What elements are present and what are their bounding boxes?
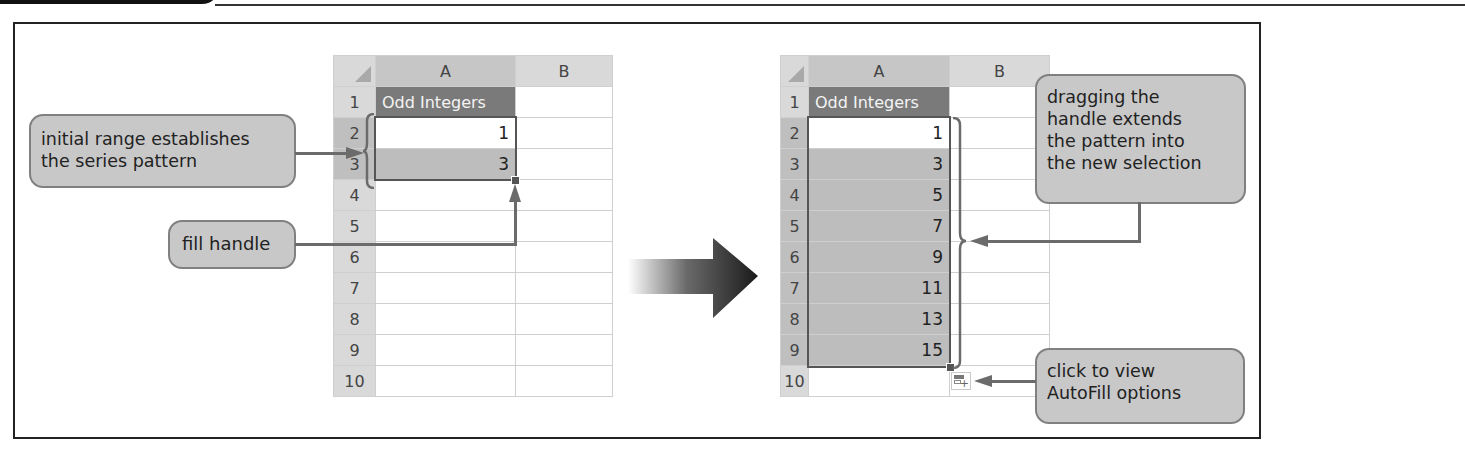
arrow-up-icon [509, 184, 521, 202]
row-header-6[interactable]: 6 [334, 242, 376, 273]
arrow-left-icon [970, 235, 988, 247]
section-header-tab [0, 0, 220, 4]
cell-b8[interactable] [516, 304, 613, 335]
connector-autofill [988, 380, 1036, 383]
callout-dragging-line1: dragging the [1047, 86, 1234, 108]
cell-a3[interactable]: 3 [809, 149, 950, 180]
callout-initial-range: initial range establishes the series pat… [29, 114, 296, 188]
cell-a2[interactable]: 1 [376, 118, 516, 149]
cell-a9[interactable]: 15 [809, 335, 950, 366]
transition-arrow-icon [628, 238, 758, 318]
connector-dragging-h [985, 240, 1141, 243]
cell-a7[interactable]: 11 [809, 273, 950, 304]
cell-b4[interactable] [516, 180, 613, 211]
cell-a1[interactable]: Odd Integers [809, 87, 950, 118]
row-header-9[interactable]: 9 [334, 335, 376, 366]
arrow-right-icon [346, 147, 364, 159]
callout-dragging-line2: handle extends [1047, 108, 1234, 130]
callout-dragging: dragging the handle extends the pattern … [1035, 74, 1246, 204]
right-range-brace-icon [952, 117, 968, 369]
row-header-1[interactable]: 1 [781, 87, 809, 118]
column-header-b[interactable]: B [516, 56, 613, 87]
cell-b9[interactable] [516, 335, 613, 366]
column-header-b[interactable]: B [950, 56, 1050, 87]
cell-a8[interactable]: 13 [809, 304, 950, 335]
row-header-9[interactable]: 9 [781, 335, 809, 366]
row-header-10[interactable]: 10 [334, 366, 376, 397]
cell-a7[interactable] [376, 273, 516, 304]
row-header-7[interactable]: 7 [334, 273, 376, 304]
cell-a6[interactable] [376, 242, 516, 273]
cell-a1[interactable]: Odd Integers [376, 87, 516, 118]
callout-dragging-line3: the pattern into [1047, 130, 1234, 152]
left-spreadsheet: A B 1 Odd Integers 2 1 3 3 4 5 6 7 8 [333, 55, 613, 397]
cell-b7[interactable] [516, 273, 613, 304]
right-spreadsheet: A B 1 Odd Integers 2 1 3 3 4 5 5 7 6 9 7… [780, 55, 1050, 397]
auto-fill-options-icon[interactable]: + [951, 372, 971, 390]
row-header-2[interactable]: 2 [781, 118, 809, 149]
row-header-6[interactable]: 6 [781, 242, 809, 273]
auto-fill-icon-plus: + [960, 378, 969, 389]
row-header-8[interactable]: 8 [781, 304, 809, 335]
left-range-brace-icon [362, 113, 376, 189]
cell-b1[interactable] [516, 87, 613, 118]
cell-a2[interactable]: 1 [809, 118, 950, 149]
row-header-5[interactable]: 5 [781, 211, 809, 242]
row-header-7[interactable]: 7 [781, 273, 809, 304]
cell-b10[interactable] [516, 366, 613, 397]
connector-fill-handle-v [514, 196, 517, 246]
callout-autofill-line1: click to view [1047, 360, 1233, 382]
row-header-4[interactable]: 4 [781, 180, 809, 211]
section-header-rule [215, 4, 1465, 6]
callout-autofill: click to view AutoFill options [1035, 348, 1245, 424]
cell-a5[interactable] [376, 211, 516, 242]
cell-a4[interactable] [376, 180, 516, 211]
column-header-a[interactable]: A [809, 56, 950, 87]
column-header-a[interactable]: A [376, 56, 516, 87]
row-header-10[interactable]: 10 [781, 366, 809, 397]
connector-fill-handle-h [295, 243, 517, 246]
connector-initial-range [295, 152, 350, 155]
callout-initial-range-line1: initial range establishes [41, 128, 284, 150]
callout-dragging-line4: the new selection [1047, 152, 1234, 174]
callout-fill-handle: fill handle [168, 220, 296, 269]
row-header-3[interactable]: 3 [781, 149, 809, 180]
cell-b5[interactable] [516, 211, 613, 242]
cell-b6[interactable] [516, 242, 613, 273]
cell-a3[interactable]: 3 [376, 149, 516, 180]
cell-a4[interactable]: 5 [809, 180, 950, 211]
select-all-corner[interactable] [334, 56, 376, 87]
cell-a8[interactable] [376, 304, 516, 335]
cell-a9[interactable] [376, 335, 516, 366]
select-all-corner[interactable] [781, 56, 809, 87]
cell-a10[interactable] [809, 366, 950, 397]
row-header-8[interactable]: 8 [334, 304, 376, 335]
callout-autofill-line2: AutoFill options [1047, 382, 1233, 404]
callout-initial-range-line2: the series pattern [41, 150, 284, 172]
callout-fill-handle-line1: fill handle [182, 233, 284, 255]
cell-a5[interactable]: 7 [809, 211, 950, 242]
cell-a6[interactable]: 9 [809, 242, 950, 273]
cell-a10[interactable] [376, 366, 516, 397]
arrow-left-icon [974, 375, 992, 387]
row-header-5[interactable]: 5 [334, 211, 376, 242]
connector-dragging-v [1138, 202, 1141, 242]
cell-b2[interactable] [516, 118, 613, 149]
cell-b3[interactable] [516, 149, 613, 180]
